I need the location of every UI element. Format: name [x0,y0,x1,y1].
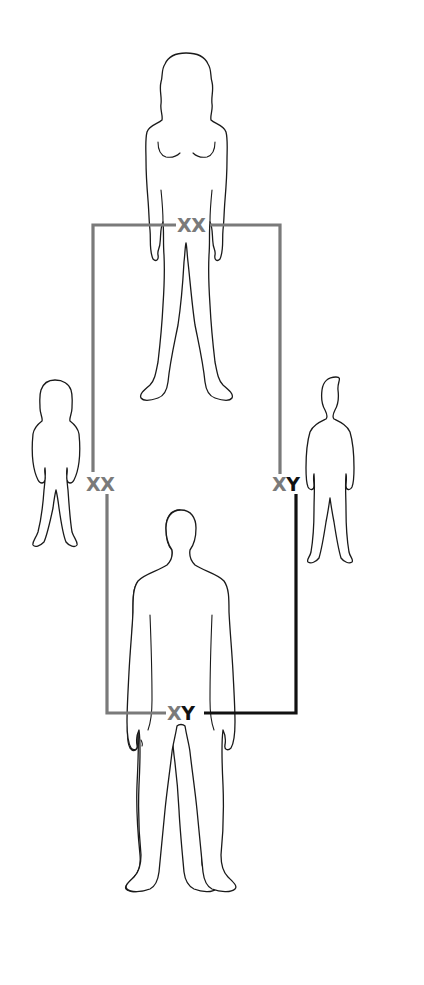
mother-x2: X [191,214,205,236]
father-figure [126,510,236,892]
mother-to-son-line [210,225,280,474]
father-chromosome-label: XY [166,703,195,723]
diagram-canvas [0,0,424,985]
son-figure [306,377,354,563]
inheritance-diagram: XX XX XY XY [0,0,424,985]
daughter-chromosome-label: XX [85,474,115,494]
son-x: X [272,473,286,495]
father-x: X [167,702,181,724]
mother-x1: X [177,214,191,236]
daughter-x2: X [100,473,114,495]
daughter-figure [32,380,80,546]
father-y: Y [181,702,194,724]
son-y: Y [286,473,299,495]
son-chromosome-label: XY [271,474,300,494]
mother-chromosome-label: XX [176,215,206,235]
daughter-x1: X [86,473,100,495]
